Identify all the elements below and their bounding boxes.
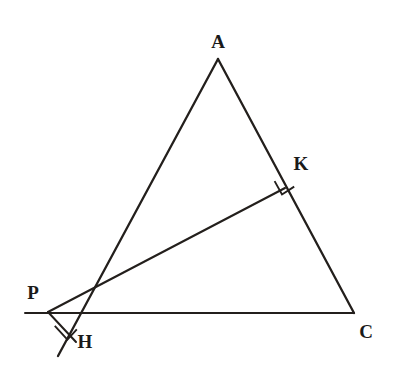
segment-PK-cevian [48,188,285,312]
geometry-diagram: A K C P H [0,0,396,380]
vertex-label-A: A [211,32,225,51]
vertex-label-P: P [27,283,39,302]
vertex-label-C: C [359,322,373,341]
segment-AC [218,59,354,313]
segment-PH-perpendicular [48,312,76,342]
vertex-label-K: K [294,154,309,173]
geometry-canvas [0,0,396,380]
vertex-label-H: H [78,332,93,351]
segment-A-to-H-extended [58,59,218,356]
